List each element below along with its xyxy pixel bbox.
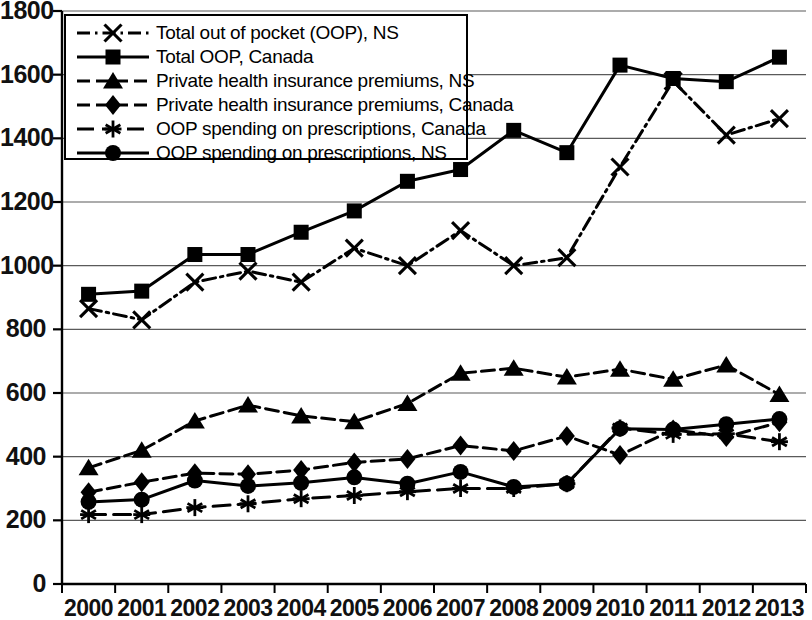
x-axis-tick-label: 2012 bbox=[700, 597, 753, 620]
marker-diamond bbox=[453, 436, 469, 456]
marker-triangle bbox=[716, 356, 736, 373]
legend-item: Private health insurance premiums, NS bbox=[74, 69, 466, 92]
legend-item: Total OOP, Canada bbox=[74, 45, 466, 68]
y-axis-tick-label: 400 bbox=[0, 444, 46, 469]
marker-asterisk bbox=[452, 480, 469, 497]
legend-key-square-icon bbox=[74, 46, 152, 68]
marker-diamond bbox=[612, 445, 628, 465]
y-axis-tick-label: 600 bbox=[0, 380, 46, 405]
marker-circle bbox=[718, 416, 734, 432]
marker-asterisk bbox=[771, 433, 788, 450]
marker-diamond bbox=[399, 449, 415, 469]
x-axis-tick-label: 2001 bbox=[115, 597, 168, 620]
marker-square bbox=[134, 284, 149, 299]
marker-circle bbox=[399, 476, 415, 492]
x-axis-tick-label: 2002 bbox=[168, 597, 221, 620]
legend-label: Total OOP, Canada bbox=[152, 47, 313, 66]
legend-item: Total out of pocket (OOP), NS bbox=[74, 21, 466, 44]
chart-container: Total out of pocket (OOP), NSTotal OOP, … bbox=[0, 0, 812, 620]
marker-circle bbox=[134, 492, 150, 508]
legend-label: OOP spending on prescriptions, Canada bbox=[152, 119, 486, 138]
legend-key-triangle-icon bbox=[74, 70, 152, 92]
legend-label: OOP spending on prescriptions, NS bbox=[152, 143, 447, 162]
marker-triangle bbox=[238, 396, 258, 413]
series-2 bbox=[79, 356, 790, 475]
marker-triangle bbox=[769, 386, 789, 403]
x-axis-tick-label: 2009 bbox=[540, 597, 593, 620]
marker-circle bbox=[665, 422, 681, 438]
x-axis-tick-label: 2005 bbox=[328, 597, 381, 620]
marker-triangle bbox=[132, 441, 152, 458]
x-axis-tick-label: 2013 bbox=[753, 597, 806, 620]
x-axis-tick-label: 2006 bbox=[381, 597, 434, 620]
marker-diamond bbox=[559, 426, 575, 446]
marker-square bbox=[294, 225, 309, 240]
series-4 bbox=[80, 420, 788, 524]
x-axis-tick-label: 2008 bbox=[487, 597, 540, 620]
marker-circle bbox=[771, 411, 787, 427]
x-axis-tick-label: 2011 bbox=[647, 597, 700, 620]
x-axis-tick-label: 2010 bbox=[593, 597, 646, 620]
y-axis-tick-label: 1200 bbox=[0, 189, 46, 214]
legend-item: Private health insurance premiums, Canad… bbox=[74, 93, 466, 116]
marker-diamond bbox=[134, 472, 150, 492]
marker-asterisk bbox=[186, 499, 203, 516]
x-axis-tick-label: 2003 bbox=[221, 597, 274, 620]
marker-x bbox=[452, 222, 469, 239]
marker-asterisk bbox=[346, 487, 363, 504]
marker-square bbox=[81, 287, 96, 302]
marker-circle bbox=[293, 475, 309, 491]
marker-square bbox=[559, 145, 574, 160]
legend-label: Private health insurance premiums, NS bbox=[152, 71, 474, 90]
marker-asterisk bbox=[240, 495, 257, 512]
marker-circle bbox=[506, 479, 522, 495]
y-axis-tick-label: 200 bbox=[0, 507, 46, 532]
marker-square bbox=[187, 247, 202, 262]
legend-key-diamond-icon bbox=[74, 94, 152, 116]
marker-circle bbox=[81, 494, 97, 510]
y-axis-tick-label: 1600 bbox=[0, 62, 46, 87]
marker-circle bbox=[346, 469, 362, 485]
marker-square bbox=[506, 123, 521, 138]
marker-circle bbox=[187, 473, 203, 489]
marker-circle bbox=[453, 464, 469, 480]
x-axis-tick-label: 2004 bbox=[275, 597, 328, 620]
marker-square bbox=[241, 247, 256, 262]
legend-key-circle-icon bbox=[74, 142, 152, 164]
marker-circle bbox=[105, 145, 121, 161]
y-axis-tick-label: 1400 bbox=[0, 125, 46, 150]
y-axis-tick-label: 1000 bbox=[0, 253, 46, 278]
marker-square bbox=[666, 71, 681, 86]
marker-asterisk bbox=[293, 490, 310, 507]
marker-triangle bbox=[610, 360, 630, 377]
legend-item: OOP spending on prescriptions, Canada bbox=[74, 117, 466, 140]
marker-x bbox=[771, 110, 788, 127]
marker-square bbox=[719, 74, 734, 89]
marker-square bbox=[613, 58, 628, 73]
marker-triangle bbox=[397, 395, 417, 412]
marker-x bbox=[133, 311, 150, 328]
marker-square bbox=[453, 162, 468, 177]
legend-label: Private health insurance premiums, Canad… bbox=[152, 95, 513, 114]
legend-label: Total out of pocket (OOP), NS bbox=[152, 23, 399, 42]
marker-square bbox=[106, 49, 121, 64]
marker-x bbox=[612, 158, 629, 175]
marker-circle bbox=[559, 476, 575, 492]
marker-square bbox=[772, 50, 787, 65]
legend-key-asterisk-icon bbox=[74, 118, 152, 140]
marker-x bbox=[186, 274, 203, 291]
legend-key-x-icon bbox=[74, 22, 152, 44]
marker-diamond bbox=[506, 441, 522, 461]
x-axis-tick-label: 2007 bbox=[434, 597, 487, 620]
chart-legend: Total out of pocket (OOP), NSTotal OOP, … bbox=[64, 14, 468, 160]
marker-diamond bbox=[105, 95, 121, 115]
marker-circle bbox=[612, 421, 628, 437]
x-axis-tick-label: 2000 bbox=[62, 597, 115, 620]
marker-x bbox=[346, 240, 363, 257]
y-axis-tick-label: 0 bbox=[0, 571, 46, 596]
marker-asterisk bbox=[105, 120, 122, 137]
marker-x bbox=[718, 127, 735, 144]
marker-square bbox=[347, 203, 362, 218]
legend-item: OOP spending on prescriptions, NS bbox=[74, 141, 466, 164]
y-axis-tick-label: 1800 bbox=[0, 0, 46, 23]
